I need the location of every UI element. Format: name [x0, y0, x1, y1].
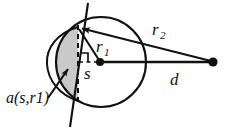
label-radius1-base: r — [96, 37, 103, 56]
label-segment-height: s — [84, 64, 91, 83]
label-area: a(s,r1) — [6, 89, 49, 107]
label-radius2-subscript: 2 — [160, 29, 166, 41]
figure-canvas: a(s,r1) r 1 r 2 s d — [0, 0, 230, 131]
label-radius1-subscript: 1 — [104, 46, 110, 58]
label-radius1: r 1 — [96, 37, 110, 58]
label-radius2-base: r — [152, 20, 159, 39]
label-distance: d — [170, 70, 179, 89]
circle-center-dot — [96, 58, 104, 66]
external-point-dot — [208, 57, 217, 66]
label-radius2: r 2 — [152, 20, 166, 41]
geometry-figure: a(s,r1) r 1 r 2 s d — [0, 0, 230, 131]
